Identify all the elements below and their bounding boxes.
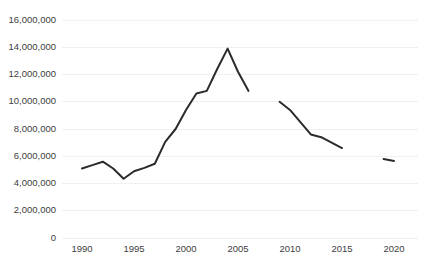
bottom-caption-strip: [0, 265, 421, 271]
y-tick-label: 16,000,000: [8, 14, 56, 25]
series-line-segment: [280, 102, 342, 148]
line-chart: 02,000,0004,000,0006,000,0008,000,00010,…: [0, 0, 421, 271]
x-tick-label: 2015: [331, 243, 352, 254]
y-tick-label: 8,000,000: [14, 123, 56, 134]
y-tick-label: 4,000,000: [14, 177, 56, 188]
series-line-segment: [384, 159, 394, 161]
y-tick-label: 10,000,000: [8, 95, 56, 106]
y-tick-label: 2,000,000: [14, 204, 56, 215]
x-tick-label: 2020: [383, 243, 404, 254]
x-tick-label: 2005: [227, 243, 248, 254]
x-axis-tick-labels: 1990199520002005201020152020: [71, 243, 404, 254]
x-tick-label: 2000: [175, 243, 196, 254]
y-tick-label: 6,000,000: [14, 150, 56, 161]
data-series-line: [82, 49, 394, 179]
x-tick-label: 1990: [71, 243, 92, 254]
series-line-segment: [82, 49, 248, 179]
x-tick-label: 2010: [279, 243, 300, 254]
x-tick-label: 1995: [123, 243, 144, 254]
y-tick-label: 12,000,000: [8, 68, 56, 79]
y-tick-label: 0: [51, 232, 56, 243]
y-axis-tick-labels: 02,000,0004,000,0006,000,0008,000,00010,…: [8, 14, 56, 243]
y-tick-label: 14,000,000: [8, 41, 56, 52]
chart-plot-area: 02,000,0004,000,0006,000,0008,000,00010,…: [0, 0, 421, 271]
gridlines: [62, 20, 418, 238]
